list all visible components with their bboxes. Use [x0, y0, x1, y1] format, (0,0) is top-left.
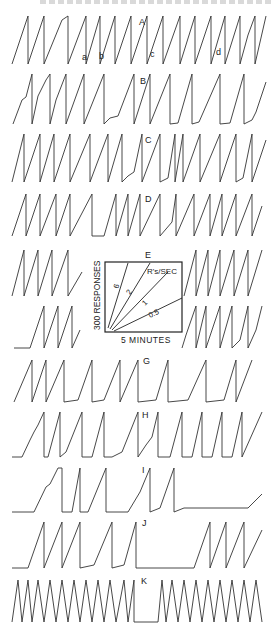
record-F — [14, 306, 80, 348]
row-label-B: B — [140, 76, 146, 86]
record-I — [12, 468, 262, 512]
row-label-A: A — [139, 17, 145, 27]
record-K — [12, 580, 262, 622]
inset-xlabel: 5 MINUTES — [121, 335, 171, 345]
row-label-I: I — [142, 465, 145, 475]
rate-scale-inset: 300 RESPONSES 5 MINUTES R's/SEC 6 2 1 0.… — [92, 260, 182, 345]
annotation-c: c — [150, 49, 155, 59]
record-D — [12, 194, 262, 236]
record-E — [12, 250, 82, 296]
row-label-C: C — [145, 135, 152, 145]
inset-ylabel: 300 RESPONSES — [92, 260, 102, 330]
row-label-E: E — [145, 250, 151, 260]
record-E-right — [184, 250, 262, 296]
row-label-G: G — [143, 356, 150, 366]
row-label-J: J — [142, 518, 147, 528]
record-G — [14, 360, 252, 402]
cumulative-records-figure: 300 RESPONSES 5 MINUTES R's/SEC 6 2 1 0.… — [0, 0, 276, 632]
inset-legend-title: R's/SEC — [147, 267, 177, 276]
annotation-d: d — [216, 47, 221, 57]
annotation-b: b — [99, 51, 104, 61]
row-label-D: D — [145, 194, 152, 204]
row-label-H: H — [142, 410, 149, 420]
record-H — [12, 412, 262, 457]
annotation-a: a — [82, 52, 87, 62]
row-label-K: K — [141, 576, 147, 586]
record-J — [12, 522, 262, 568]
record-F-right — [182, 306, 262, 348]
record-C — [12, 134, 266, 182]
